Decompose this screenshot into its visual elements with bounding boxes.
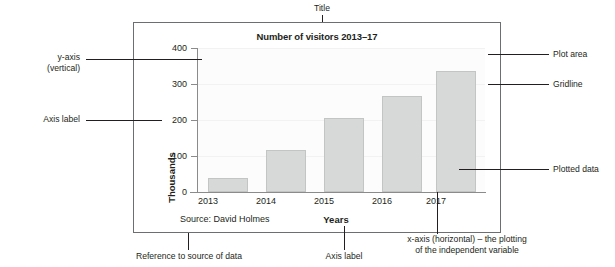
bar-2015	[324, 118, 364, 192]
x-tick-label-2014: 2014	[237, 196, 295, 206]
y-tick	[191, 156, 197, 157]
annotation-source-leader	[188, 233, 189, 250]
annotation-x-axis-desc-label: x-axis (horizontal) – the plotting of th…	[376, 234, 558, 255]
annotation-y-axis-label: y-axis (vertical)	[6, 52, 80, 73]
x-tick-label-2013: 2013	[179, 196, 237, 206]
bar-2016	[382, 96, 422, 193]
source-note: Source: David Holmes	[180, 214, 270, 224]
bar-2017	[436, 71, 476, 192]
x-tick-label-2016: 2016	[353, 196, 411, 206]
annotation-plotted-data-leader	[459, 169, 549, 170]
annotation-plotted-data-label: Plotted data	[553, 164, 615, 175]
annotation-axis-label-left: Axis label	[6, 114, 80, 125]
chart-title: Number of visitors 2013–17	[133, 31, 501, 42]
y-tick	[191, 84, 197, 85]
plotted-data-series	[198, 48, 485, 192]
x-tick-label-2017: 2017	[407, 196, 465, 206]
annotation-y-axis-leader	[86, 59, 202, 60]
y-axis-title: Thousands	[166, 133, 177, 223]
x-tick-label-2015: 2015	[295, 196, 353, 206]
annotation-plot-area-label: Plot area	[553, 49, 613, 60]
annotation-plot-area-leader	[488, 54, 549, 55]
annotation-gridline-label: Gridline	[553, 79, 613, 90]
y-tick-label: 400	[153, 43, 187, 53]
x-axis-title: Years	[296, 214, 376, 225]
annotation-gridline-leader	[488, 84, 549, 85]
annotation-title-label: Title	[292, 3, 352, 14]
figure-stage: Title Number of visitors 2013–17 400 300…	[0, 0, 615, 267]
y-tick	[191, 192, 197, 193]
bar-2013	[208, 178, 248, 192]
bar-2014	[266, 150, 306, 193]
annotation-source-label: Reference to source of data	[122, 251, 256, 262]
annotation-x-axis-desc-leader	[437, 192, 438, 234]
y-tick	[191, 48, 197, 49]
y-tick	[191, 120, 197, 121]
annotation-x-axis-label-leader	[344, 226, 345, 250]
x-axis-line	[190, 192, 486, 193]
annotation-x-axis-label: Axis label	[307, 251, 381, 262]
annotation-axis-label-left-leader	[86, 120, 162, 121]
